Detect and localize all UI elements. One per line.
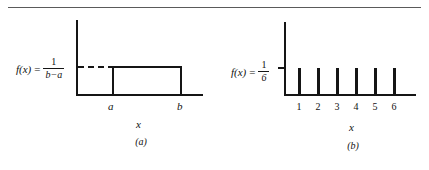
panel-a-formula-numerator: 1 <box>48 57 59 67</box>
panel-b-discrete-uniform: f(x) = 1 6 1 2 3 4 5 6 x (b) <box>215 0 429 170</box>
panel-a-block-top-edge <box>112 66 182 68</box>
panel-b-caption: (b) <box>338 141 368 151</box>
panel-a-dashed-level-line <box>78 66 114 68</box>
panel-b-formula-numerator: 1 <box>258 60 269 70</box>
panel-a-x-axis-label: x <box>136 119 141 130</box>
panel-b-xtick-1: 1 <box>292 102 306 112</box>
figure-root: f(x) = 1 b−a a b x (a) f(x) = <box>0 0 429 170</box>
panel-a-xtick-a: a <box>108 101 114 112</box>
panel-b-bar-1 <box>298 68 301 95</box>
panel-b-formula-equals: = <box>249 66 255 78</box>
panel-a-x-axis <box>76 94 203 96</box>
panel-a-formula-equals: = <box>34 63 40 75</box>
panel-a-block-right-edge <box>180 66 182 96</box>
panel-a-formula-lhs: f(x) <box>16 63 31 75</box>
panel-b-bar-3 <box>336 68 339 95</box>
panel-b-xtick-2: 2 <box>311 102 325 112</box>
panel-b-x-axis <box>284 94 416 96</box>
panel-a-caption: (a) <box>126 137 156 147</box>
panel-b-xtick-6: 6 <box>387 102 401 112</box>
panel-b-y-axis <box>284 22 286 96</box>
panel-b-formula-fraction: 1 6 <box>258 60 269 83</box>
panel-a-formula-denominator: b−a <box>43 70 64 80</box>
panel-b-formula-lhs: f(x) <box>231 66 246 78</box>
panel-b-bar-4 <box>355 68 358 95</box>
panel-a-block-left-edge <box>112 66 114 96</box>
panel-b-density-formula: f(x) = 1 6 <box>231 60 269 83</box>
panel-a-formula-fraction: 1 b−a <box>43 57 64 80</box>
panel-b-x-axis-label: x <box>349 122 354 133</box>
panel-a-y-axis <box>76 20 78 96</box>
panel-b-xtick-5: 5 <box>368 102 382 112</box>
panel-a-xtick-b: b <box>177 101 183 112</box>
panel-b-bar-6 <box>393 68 396 95</box>
panel-b-xtick-4: 4 <box>349 102 363 112</box>
panel-b-formula-denominator: 6 <box>259 73 268 83</box>
panel-a-density-formula: f(x) = 1 b−a <box>16 57 64 80</box>
panel-b-bar-2 <box>317 68 320 95</box>
panel-b-bar-5 <box>374 68 377 95</box>
panel-b-xtick-3: 3 <box>330 102 344 112</box>
panel-a-continuous-uniform: f(x) = 1 b−a a b x (a) <box>0 0 215 170</box>
